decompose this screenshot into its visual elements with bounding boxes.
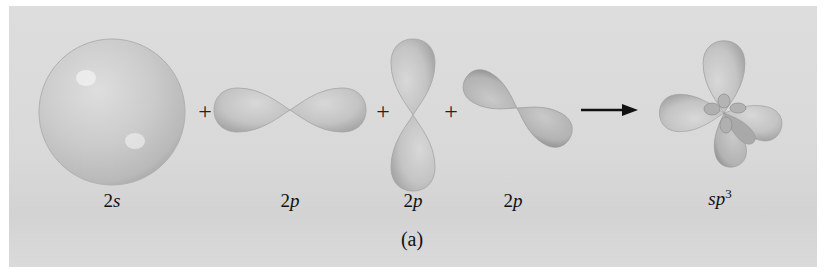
label-2p-horizontal: 2p bbox=[281, 190, 300, 212]
figure-caption: (a) bbox=[401, 228, 423, 251]
orbital-sp3-hybrid bbox=[659, 41, 785, 170]
plus-operator-1: + bbox=[198, 98, 212, 125]
label-2s: 2s bbox=[104, 190, 121, 212]
label-sp3: sp3 bbox=[708, 186, 731, 210]
orbital-2s-sphere bbox=[39, 39, 185, 185]
orbital-2p-vertical bbox=[391, 39, 435, 191]
label-2p-diagonal: 2p bbox=[504, 190, 523, 212]
label-2p-vertical: 2p bbox=[404, 190, 423, 212]
plus-operator-2: + bbox=[376, 98, 390, 125]
orbital-2p-diagonal bbox=[457, 63, 578, 153]
plus-operator-3: + bbox=[444, 98, 458, 125]
arrow-right-icon bbox=[581, 104, 638, 116]
orbital-2p-horizontal bbox=[214, 88, 366, 132]
